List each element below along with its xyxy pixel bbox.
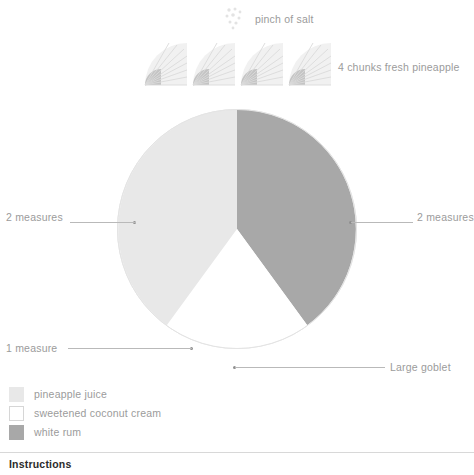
chart-legend: pineapple juice sweetened coconut cream … — [9, 386, 161, 443]
callout-white-rum: 2 measures — [417, 212, 474, 223]
leader-line-goblet — [235, 367, 385, 368]
legend-item-coconut-cream: sweetened coconut cream — [9, 405, 161, 421]
pineapple-chunks-group — [143, 41, 333, 87]
recipe-infographic: pinch of salt — [0, 0, 474, 475]
legend-label-coconut-cream: sweetened coconut cream — [34, 408, 161, 419]
leader-line-coconut — [68, 348, 192, 349]
ingredient-pie-chart — [116, 108, 358, 350]
pineapple-chunk-icon — [239, 41, 285, 87]
legend-label-pineapple-juice: pineapple juice — [34, 389, 107, 400]
legend-label-white-rum: white rum — [34, 427, 81, 438]
legend-swatch-white-rum — [9, 425, 24, 440]
pineapple-chunk-icon — [287, 41, 333, 87]
section-divider — [0, 452, 474, 453]
salt-label: pinch of salt — [255, 14, 314, 25]
leader-line-juice — [70, 222, 136, 223]
pineapple-chunk-icon — [143, 41, 189, 87]
leader-line-rum — [351, 222, 413, 223]
instructions-heading: Instructions — [9, 459, 72, 470]
pineapple-chunk-icon — [191, 41, 237, 87]
legend-swatch-coconut-cream — [9, 406, 24, 421]
salt-grains-icon — [224, 6, 250, 32]
legend-item-white-rum: white rum — [9, 424, 161, 440]
pineapple-label: 4 chunks fresh pineapple — [338, 62, 460, 73]
callout-pineapple-juice: 2 measures — [6, 212, 63, 223]
legend-swatch-pineapple-juice — [9, 387, 24, 402]
callout-glassware: Large goblet — [390, 362, 451, 373]
legend-item-pineapple-juice: pineapple juice — [9, 386, 161, 402]
callout-coconut-cream: 1 measure — [6, 343, 57, 354]
